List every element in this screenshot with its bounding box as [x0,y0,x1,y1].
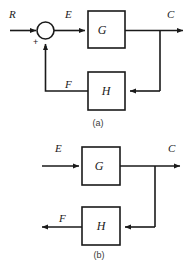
label-block-h-a: H [101,84,112,98]
label-block-g-b: G [95,159,104,173]
label-c-b: C [168,142,176,154]
caption-b: (b) [94,250,105,260]
block-diagram-figure: R E C F G H + - (a) [0,0,196,277]
caption-a: (a) [93,118,104,128]
summing-junction-a [37,22,54,39]
label-e-a: E [64,8,72,20]
label-r: R [8,8,16,20]
block-diagram-canvas: R E C F G H + - (a) [0,0,196,277]
block-g-a [88,11,125,48]
label-block-g-a: G [98,23,107,37]
label-f-a: F [64,78,72,90]
label-sign-positive-a: + [33,37,38,47]
label-e-b: E [54,142,62,154]
label-sign-negative-a: - [44,41,47,51]
label-c-a: C [167,8,175,20]
diagram-b: E C F G H (b) [42,142,180,260]
label-f-b: F [58,212,66,224]
diagram-a: R E C F G H + - (a) [8,8,183,128]
label-block-h-b: H [96,219,107,233]
